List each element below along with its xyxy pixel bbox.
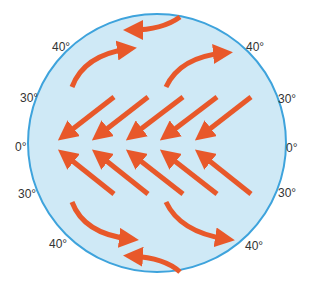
- label-left-30-south: 30°: [18, 187, 36, 201]
- label-right-30-north: 30°: [278, 92, 296, 106]
- label-right-40-north: 40°: [246, 40, 264, 54]
- label-right-40-south: 40°: [245, 239, 263, 253]
- label-right-30-south: 30°: [278, 186, 296, 200]
- label-left-40-north: 40°: [52, 40, 70, 54]
- label-left-equator: 0°: [15, 140, 26, 154]
- label-left-40-south: 40°: [49, 237, 67, 251]
- label-left-30-north: 30°: [20, 91, 38, 105]
- label-right-equator: 0°: [286, 141, 297, 155]
